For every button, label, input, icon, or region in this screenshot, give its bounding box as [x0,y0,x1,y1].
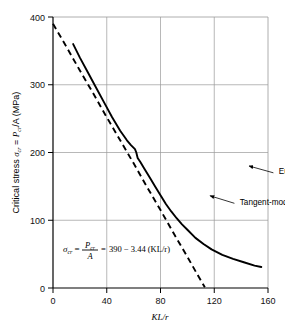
figure-critical-stress-chart: 400 300 200 100 0 0 40 80 120 160 KL/r C… [0,0,285,329]
equation-rhs: 390 − 3.44 (KL/r) [109,244,170,254]
euler-label: Euler curve [279,167,285,176]
ytick-label-300: 300 [30,80,45,90]
svg-text:Critical stress σcr = Pcr/A (M: Critical stress σcr = Pcr/A (MPa) [11,92,22,214]
y-axis-title-equals: = [11,137,21,147]
y-tick-marks [48,17,53,288]
xtick-label-40: 40 [102,296,112,306]
y-axis-title-prefix: Critical stress [11,157,21,214]
chart-canvas: 400 300 200 100 0 0 40 80 120 160 KL/r C… [0,0,285,329]
ytick-label-100: 100 [30,216,45,226]
xtick-label-120: 120 [207,296,222,306]
tangent-modulus-label: Tangent-modulus curve [240,198,285,207]
y-axis-title: Critical stress σcr = Pcr/A (MPa) [11,92,22,214]
ytick-label-200: 200 [30,148,45,158]
y-axis-title-suffix: /A (MPa) [11,92,21,127]
xtick-label-0: 0 [50,296,55,306]
equation-equals-2: = [101,244,106,254]
x-axis-title: KL/r [150,312,169,322]
ytick-label-400: 400 [30,13,45,23]
xtick-label-160: 160 [260,296,275,306]
equation-denominator: A [86,251,93,261]
xtick-label-80: 80 [155,296,165,306]
equation-equals-1: = [74,244,79,254]
equation-sigma-sub: cr [67,249,73,255]
x-tick-marks [53,288,268,293]
ytick-label-0: 0 [40,284,45,294]
